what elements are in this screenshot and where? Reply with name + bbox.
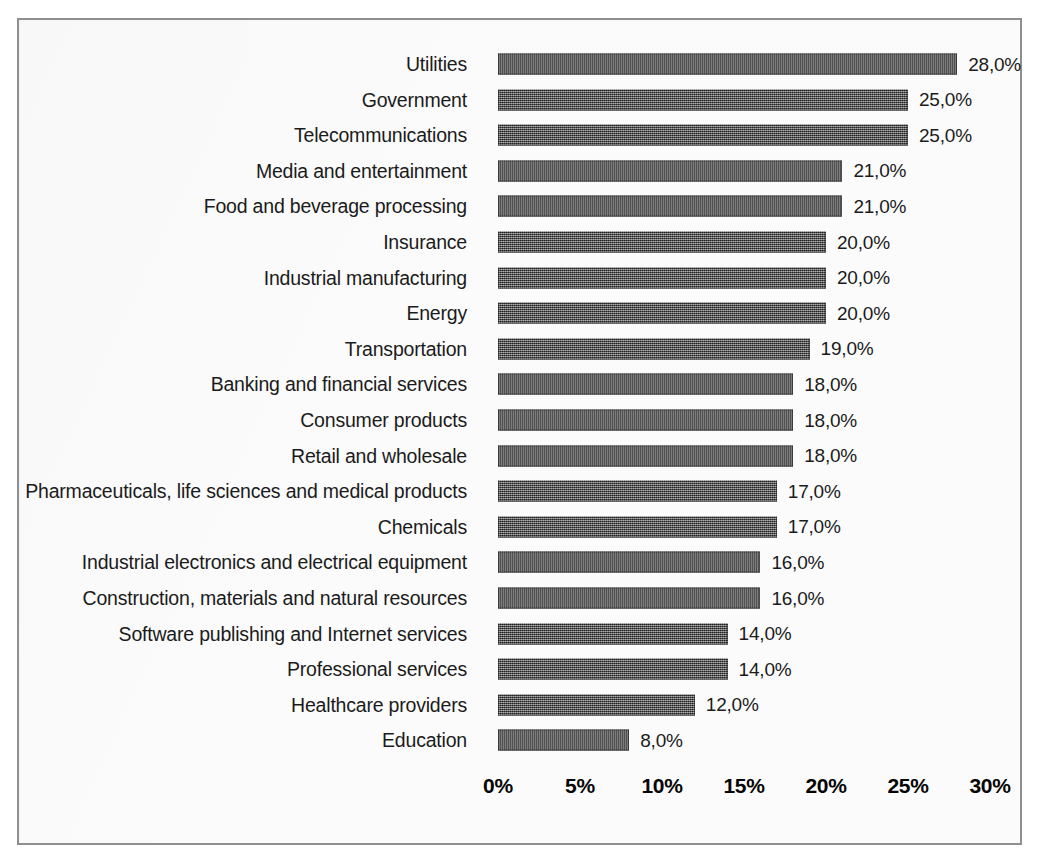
bar-row: Telecommunications25,0% (19, 118, 1020, 152)
bar-value-label: 28,0% (968, 53, 1021, 75)
bar-with-value: 14,0% (498, 659, 791, 680)
bar (498, 588, 760, 609)
chart-frame: Utilities28,0%Government25,0%Telecommuni… (17, 18, 1022, 845)
bar-value-label: 20,0% (837, 231, 890, 253)
bar-value-label: 21,0% (853, 160, 906, 182)
bar-with-value: 16,0% (498, 552, 824, 573)
bar-value-label: 8,0% (640, 729, 683, 751)
bar-row: Utilities28,0% (19, 47, 1020, 81)
bar (498, 730, 629, 751)
bar (498, 374, 793, 395)
bar-row: Government25,0% (19, 83, 1020, 117)
bar-with-value: 16,0% (498, 588, 824, 609)
bar-row: Pharmaceuticals, life sciences and medic… (19, 474, 1020, 508)
bar (498, 410, 793, 431)
category-label: Insurance (0, 232, 467, 252)
x-tick-label: 5% (565, 774, 595, 798)
category-label: Education (0, 730, 467, 750)
bar (498, 232, 826, 253)
bar (498, 623, 728, 644)
bar-with-value: 17,0% (498, 481, 841, 502)
category-label: Chemicals (0, 517, 467, 537)
x-tick-label: 20% (805, 774, 846, 798)
bar-with-value: 17,0% (498, 516, 841, 537)
bar-row: Energy20,0% (19, 296, 1020, 330)
bar (498, 694, 695, 715)
bar-chart-plot-area: Utilities28,0%Government25,0%Telecommuni… (19, 20, 1020, 843)
bar-value-label: 25,0% (919, 89, 972, 111)
bar (498, 54, 957, 75)
bar-with-value: 21,0% (498, 160, 906, 181)
bar (498, 89, 908, 110)
bar-row: Software publishing and Internet service… (19, 617, 1020, 651)
bar-row: Banking and financial services18,0% (19, 367, 1020, 401)
bar-row: Media and entertainment21,0% (19, 154, 1020, 188)
bar-with-value: 18,0% (498, 374, 857, 395)
category-label: Energy (0, 303, 467, 323)
bar-with-value: 20,0% (498, 303, 890, 324)
category-label: Consumer products (0, 410, 467, 430)
x-tick-label: 15% (723, 774, 764, 798)
bar-value-label: 14,0% (739, 623, 792, 645)
bar-row: Consumer products18,0% (19, 403, 1020, 437)
category-label: Media and entertainment (0, 161, 467, 181)
category-label: Construction, materials and natural reso… (0, 588, 467, 608)
bar (498, 516, 777, 537)
bar-value-label: 17,0% (788, 480, 841, 502)
bar-value-label: 18,0% (804, 409, 857, 431)
category-label: Healthcare providers (0, 695, 467, 715)
bar-with-value: 25,0% (498, 89, 972, 110)
bar-row: Industrial manufacturing20,0% (19, 261, 1020, 295)
bar-value-label: 19,0% (821, 338, 874, 360)
bar-value-label: 16,0% (771, 551, 824, 573)
category-label: Pharmaceuticals, life sciences and medic… (0, 481, 467, 501)
bar-value-label: 20,0% (837, 302, 890, 324)
bar-row: Insurance20,0% (19, 225, 1020, 259)
bar-value-label: 25,0% (919, 124, 972, 146)
bar-with-value: 21,0% (498, 196, 906, 217)
category-label: Transportation (0, 339, 467, 359)
bar (498, 196, 842, 217)
bar-with-value: 19,0% (498, 338, 873, 359)
bar-value-label: 12,0% (706, 694, 759, 716)
category-label: Software publishing and Internet service… (0, 624, 467, 644)
category-label: Banking and financial services (0, 374, 467, 394)
bar-value-label: 20,0% (837, 267, 890, 289)
bar-with-value: 12,0% (498, 694, 759, 715)
category-label: Professional services (0, 659, 467, 679)
category-label: Utilities (0, 54, 467, 74)
category-label: Government (0, 90, 467, 110)
bar-row: Industrial electronics and electrical eq… (19, 545, 1020, 579)
bar-with-value: 28,0% (498, 54, 1021, 75)
bar-row: Retail and wholesale18,0% (19, 439, 1020, 473)
bar-with-value: 20,0% (498, 232, 890, 253)
bar (498, 125, 908, 146)
bar (498, 659, 728, 680)
bar (498, 445, 793, 466)
x-tick-label: 10% (641, 774, 682, 798)
bar (498, 552, 760, 573)
bar (498, 160, 842, 181)
category-label: Telecommunications (0, 125, 467, 145)
category-label: Industrial electronics and electrical eq… (0, 552, 467, 572)
bar-with-value: 25,0% (498, 125, 972, 146)
x-axis-tick-labels: 0%5%10%15%20%25%30% (19, 774, 1020, 814)
bar (498, 481, 777, 502)
bar (498, 267, 826, 288)
bar-row: Transportation19,0% (19, 332, 1020, 366)
bar (498, 303, 826, 324)
bar (498, 338, 810, 359)
category-label: Retail and wholesale (0, 446, 467, 466)
bar-value-label: 18,0% (804, 373, 857, 395)
x-tick-label: 30% (969, 774, 1010, 798)
bar-value-label: 18,0% (804, 445, 857, 467)
category-label: Industrial manufacturing (0, 268, 467, 288)
bar-value-label: 17,0% (788, 516, 841, 538)
bar-row: Construction, materials and natural reso… (19, 581, 1020, 615)
bar-with-value: 18,0% (498, 410, 857, 431)
x-tick-label: 25% (887, 774, 928, 798)
category-label: Food and beverage processing (0, 196, 467, 216)
bar-row: Healthcare providers12,0% (19, 688, 1020, 722)
bar-value-label: 16,0% (771, 587, 824, 609)
bar-row: Food and beverage processing21,0% (19, 189, 1020, 223)
